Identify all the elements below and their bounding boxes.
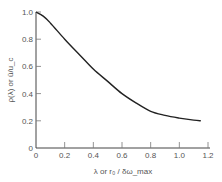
- y-axis-label: ρ(λ) or ū/u_c: [6, 57, 15, 102]
- y-tick-label: 0.6: [22, 62, 34, 71]
- y-ticks: 00.20.40.60.81.0: [22, 8, 41, 153]
- data-line: [36, 12, 201, 121]
- axes: [36, 12, 210, 148]
- x-tick-label: 0.4: [88, 151, 100, 160]
- y-tick-label: 0.4: [22, 90, 34, 99]
- y-tick-label: 0: [29, 144, 34, 153]
- x-tick-label: 0: [34, 151, 39, 160]
- x-tick-label: 0.8: [145, 151, 157, 160]
- x-tick-label: 1.0: [174, 151, 186, 160]
- x-axis-label: λ or r₀ / δω_max: [94, 167, 152, 176]
- y-tick-label: 1.0: [22, 8, 34, 17]
- y-tick-label: 0.8: [22, 35, 34, 44]
- x-tick-label: 1.2: [202, 151, 214, 160]
- x-tick-label: 0.6: [116, 151, 128, 160]
- x-tick-label: 0.2: [59, 151, 71, 160]
- y-tick-label: 0.2: [22, 117, 34, 126]
- chart: 00.20.40.60.81.01.2 00.20.40.60.81.0 λ o…: [0, 0, 222, 182]
- x-ticks: 00.20.40.60.81.01.2: [34, 142, 214, 160]
